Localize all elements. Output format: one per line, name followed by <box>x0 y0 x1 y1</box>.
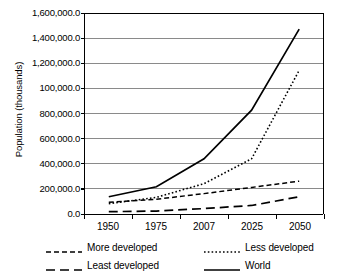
legend-line-swatch <box>46 243 82 253</box>
plot-area <box>84 13 324 214</box>
legend-line-swatch <box>46 261 82 271</box>
legend-item[interactable]: Least developed <box>46 258 159 273</box>
series-line <box>109 197 299 212</box>
legend-label: More developed <box>87 243 157 253</box>
legend-line-swatch <box>204 261 240 271</box>
population-projection-chart: Population (thousands) 0.0200,000.0400,0… <box>0 0 338 274</box>
x-tick-label: 1975 <box>145 221 167 232</box>
x-tick-label: 2007 <box>193 221 215 232</box>
x-tick-label: 2025 <box>241 221 263 232</box>
series-line <box>109 29 299 197</box>
legend-item[interactable]: More developed <box>46 240 157 255</box>
series-layer <box>85 13 323 212</box>
legend-label: Least developed <box>87 261 159 271</box>
y-tick-label: 600,000.0 <box>12 134 80 144</box>
y-tick-label: 1,400,000.0 <box>12 33 80 43</box>
x-tick-label: 2050 <box>289 221 311 232</box>
x-tick-mark <box>228 214 229 219</box>
legend-line-swatch <box>204 243 240 253</box>
legend-label: Less developed <box>245 243 314 253</box>
x-tick-mark <box>324 214 325 219</box>
chart-legend: More developedLess developedLeast develo… <box>46 240 332 274</box>
legend-label: World <box>245 261 270 271</box>
y-axis-tick-labels: 0.0200,000.0400,000.0600,000.0800,000.01… <box>12 0 80 274</box>
y-tick-label: 100,000.0 <box>12 84 80 94</box>
legend-item[interactable]: World <box>204 258 270 273</box>
x-tick-label: 1950 <box>97 221 119 232</box>
y-tick-label: 400,000.0 <box>12 159 80 169</box>
y-tick-label: 800,000.0 <box>12 109 80 119</box>
y-tick-label: 0.0 <box>12 209 80 219</box>
series-line <box>109 70 299 203</box>
y-tick-label: 1,200,000.0 <box>12 59 80 69</box>
y-tick-label: 1,600,000.0 <box>12 8 80 18</box>
x-tick-mark <box>276 214 277 219</box>
y-tick-label: 200,000.0 <box>12 184 80 194</box>
legend-item[interactable]: Less developed <box>204 240 314 255</box>
x-axis-tick-labels: 19501975200720252050 <box>84 214 324 240</box>
series-line <box>109 181 299 202</box>
x-tick-mark <box>132 214 133 219</box>
x-tick-mark <box>84 214 85 219</box>
x-tick-mark <box>180 214 181 219</box>
